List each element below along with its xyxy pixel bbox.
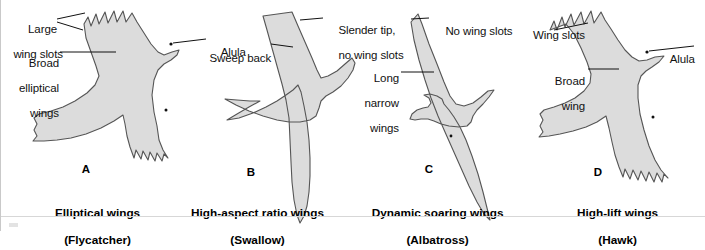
caption-line: Dynamic soaring wings bbox=[372, 206, 504, 220]
annotation-line: Large bbox=[28, 23, 57, 35]
annotation-line: Long bbox=[374, 72, 399, 84]
caption-line: Elliptical wings bbox=[55, 206, 140, 220]
annotation-line: wings bbox=[370, 122, 399, 134]
panel-letter-b: B bbox=[236, 166, 266, 178]
caption-line: High-aspect ratio wings bbox=[191, 206, 324, 220]
annotation-sweep-back: Sweep back bbox=[197, 39, 269, 77]
alula-marker-d bbox=[645, 50, 648, 53]
annotation-line: narrow bbox=[364, 97, 399, 109]
annotation-broad-elliptical-wings: Broad elliptical wings bbox=[1, 44, 59, 132]
caption-line: (Swallow) bbox=[230, 233, 284, 247]
figure-bottom-rule bbox=[1, 216, 705, 217]
caption-panel-b: High-aspect ratio wings (Swallow) bbox=[161, 193, 341, 250]
annotation-line: Broad bbox=[555, 75, 585, 87]
panel-letter-d: D bbox=[583, 166, 613, 178]
annotation-broad-wing: Broad wing bbox=[529, 62, 585, 125]
wing-marker-d bbox=[652, 116, 655, 119]
caption-line: High-lift wings bbox=[577, 206, 658, 220]
caption-panel-d: High-lift wings (Hawk) bbox=[536, 193, 686, 250]
annotation-line: Sweep back bbox=[209, 52, 271, 64]
caption-line: (Flycatcher) bbox=[64, 233, 131, 247]
annotation-line: Alula bbox=[670, 53, 695, 65]
annotation-long-narrow-wings: Long narrow wings bbox=[341, 59, 399, 147]
annotation-line: elliptical bbox=[19, 82, 59, 94]
wing-marker-c bbox=[450, 135, 453, 138]
alula-marker-a bbox=[169, 42, 172, 45]
annotation-line: wing bbox=[562, 100, 585, 112]
annotation-no-wing-slots: No wing slots bbox=[433, 12, 512, 50]
panel-letter-c: C bbox=[414, 163, 444, 175]
wing-marker-a bbox=[165, 109, 168, 112]
annotation-line: Broad bbox=[29, 57, 59, 69]
annotation-line: Slender tip, bbox=[338, 24, 395, 36]
caption-panel-a: Elliptical wings (Flycatcher) bbox=[11, 193, 171, 250]
caption-panel-c: Dynamic soaring wings (Albatross) bbox=[341, 193, 521, 250]
figure-corner-mark bbox=[9, 223, 18, 227]
annotation-line: Wing slots bbox=[533, 29, 585, 41]
annotation-line: wings bbox=[30, 107, 59, 119]
caption-line: (Hawk) bbox=[598, 233, 637, 247]
annotation-alula-d: Alula bbox=[658, 40, 695, 78]
annotation-wing-slots: Wing slots bbox=[513, 16, 585, 54]
caption-line: (Albatross) bbox=[406, 233, 468, 247]
annotation-line: No wing slots bbox=[445, 25, 512, 37]
panel-letter-a: A bbox=[71, 163, 101, 175]
